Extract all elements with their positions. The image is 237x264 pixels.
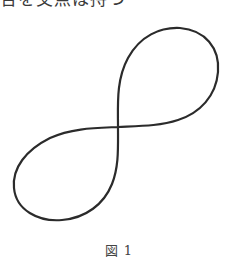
caption-number: 1 [124,243,132,258]
caption-label: 図 [105,243,118,258]
curve-path [14,28,218,220]
figure-caption: 図1 [0,243,237,259]
figure-eight-curve [0,0,237,240]
